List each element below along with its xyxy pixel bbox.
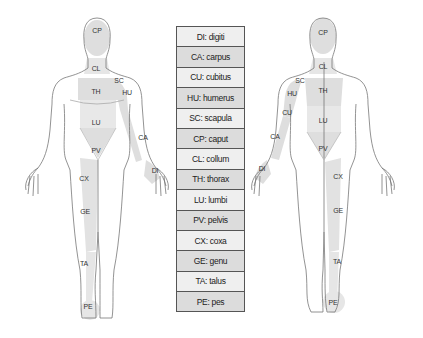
legend-row-talus: TA: talus bbox=[177, 272, 244, 292]
legend-row-coxa: CX: coxa bbox=[177, 231, 244, 251]
back-label-cl: CL bbox=[319, 63, 328, 70]
back-label-ge: GE bbox=[333, 207, 343, 214]
back-label-th: TH bbox=[319, 87, 328, 94]
legend-row-scapula: SC: scapula bbox=[177, 109, 244, 129]
back-label-cu: CU bbox=[282, 109, 292, 116]
front-label-th: TH bbox=[92, 88, 101, 95]
legend-row-digiti: DI: digiti bbox=[177, 27, 244, 47]
front-label-ge: GE bbox=[80, 208, 90, 215]
back-body-figure: CP CL SC HU TH CU LU CA PV DI CX GE TA P… bbox=[245, 0, 423, 338]
front-label-sc: SC bbox=[114, 77, 123, 84]
back-label-lu: LU bbox=[319, 117, 328, 124]
back-label-hu: HU bbox=[287, 90, 297, 97]
legend-row-pelvis: PV: pelvis bbox=[177, 211, 244, 231]
legend-row-collum: CL: collum bbox=[177, 149, 244, 169]
back-label-sc: SC bbox=[295, 77, 304, 84]
front-label-cp: CP bbox=[92, 27, 101, 34]
legend-row-caput: CP: caput bbox=[177, 129, 244, 149]
front-body-outline-icon bbox=[0, 0, 175, 338]
front-label-di: DI bbox=[152, 167, 159, 174]
legend-row-lumbi: LU: lumbi bbox=[177, 190, 244, 210]
back-label-cp: CP bbox=[318, 29, 327, 36]
back-label-pe: PE bbox=[329, 299, 338, 306]
front-label-hu: HU bbox=[122, 89, 132, 96]
front-label-pe: PE bbox=[84, 303, 93, 310]
legend-row-pes: PE: pes bbox=[177, 292, 244, 311]
front-label-ta: TA bbox=[80, 260, 88, 267]
front-label-cx: CX bbox=[79, 175, 88, 182]
legend-row-carpus: CA: carpus bbox=[177, 47, 244, 67]
front-label-pv: PV bbox=[92, 147, 101, 154]
back-label-pv: PV bbox=[319, 145, 328, 152]
back-body-outline-icon bbox=[245, 0, 423, 338]
back-label-ta: TA bbox=[333, 258, 341, 265]
back-label-di: DI bbox=[259, 165, 266, 172]
back-label-ca: CA bbox=[270, 133, 279, 140]
front-body-figure: CP CL SC HU TH LU CA PV DI CX GE TA PE bbox=[0, 0, 175, 338]
legend-row-cubitus: CU: cubitus bbox=[177, 68, 244, 88]
region-legend-table: DI: digiti CA: carpus CU: cubitus HU: hu… bbox=[176, 26, 245, 312]
front-label-cl: CL bbox=[92, 65, 101, 72]
back-label-cx: CX bbox=[333, 173, 342, 180]
front-label-lu: LU bbox=[92, 119, 101, 126]
legend-row-genu: GE: genu bbox=[177, 251, 244, 271]
legend-row-humerus: HU: humerus bbox=[177, 88, 244, 108]
front-label-ca: CA bbox=[138, 134, 147, 141]
legend-row-thorax: TH: thorax bbox=[177, 170, 244, 190]
